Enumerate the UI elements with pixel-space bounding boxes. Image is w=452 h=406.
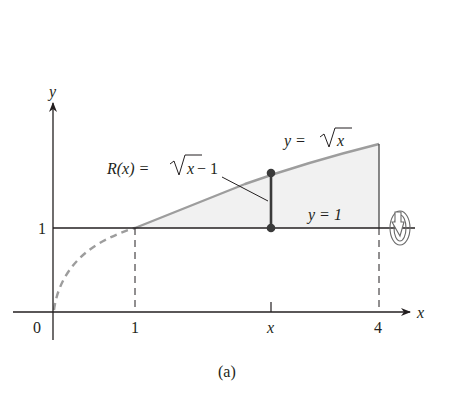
svg-text:R(x) =: R(x) = [106, 160, 149, 178]
radius-label: R(x) = x − 1 [106, 155, 218, 178]
solid-of-revolution-diagram: y x 0 1 x 4 1 y = x y = 1 R(x) = x − 1 (… [0, 0, 452, 406]
radius-bottom-point [267, 224, 276, 233]
x-tick-0: 0 [33, 319, 41, 336]
svg-text:− 1: − 1 [197, 160, 218, 177]
svg-text:x: x [186, 160, 194, 177]
x-tick-x: x [266, 319, 274, 336]
y-axis-label: y [47, 83, 57, 101]
x-tick-1: 1 [131, 319, 139, 336]
y-tick-1: 1 [38, 220, 46, 237]
sqrt-curve-dashed [54, 228, 135, 310]
radius-top-point [267, 169, 276, 178]
line-y-1-label: y = 1 [306, 206, 342, 224]
svg-text:y =: y = [282, 132, 306, 150]
shaded-region [135, 144, 379, 228]
x-axis-label: x [416, 304, 424, 321]
sqrt-curve-label: y = x [282, 128, 352, 150]
figure-caption: (a) [218, 363, 236, 381]
svg-text:x: x [336, 132, 344, 149]
x-tick-4: 4 [374, 319, 382, 336]
